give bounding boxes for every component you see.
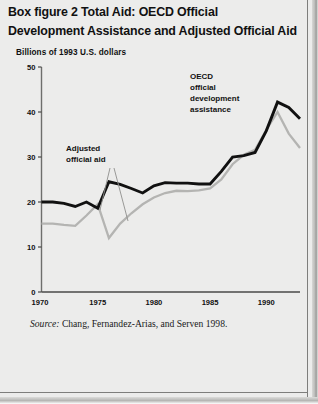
y-axis-tick-label: 30 — [27, 153, 35, 162]
paper-edge-bottom — [0, 397, 318, 404]
x-axis-tick-label: 1970 — [32, 298, 49, 307]
x-axis-tick-label: 1980 — [145, 298, 162, 307]
figure-subtitle: Billions of 1993 U.S. dollars — [16, 48, 126, 57]
line-chart-svg: 01020304050 19701975198019851990 Adjuste… — [0, 58, 318, 308]
y-axis-tick-labels: 01020304050 — [27, 63, 35, 297]
y-axis-tick-label: 20 — [27, 198, 35, 207]
source-citation: Chang, Fernandez-Arias, and Serven 1998. — [59, 318, 227, 329]
x-axis-tick-label: 1985 — [202, 298, 220, 307]
annotation-adjusted-official-aid: Adjusted official aid — [66, 144, 106, 164]
annotation-adjusted-line-1: Adjusted — [66, 144, 100, 153]
y-axis-tick-label: 50 — [27, 63, 35, 72]
figure-title: Box figure 2 Total Aid: OECD Official De… — [8, 3, 308, 41]
annotation-oecd-line-3: development — [190, 94, 240, 103]
series-line-adjusted-official-aid — [42, 112, 301, 238]
figure-page: Box figure 2 Total Aid: OECD Official De… — [0, 0, 318, 404]
page-frame-bottom-rule — [0, 392, 308, 393]
paper-edge-right — [312, 0, 318, 404]
y-axis-tick-label: 0 — [31, 288, 35, 297]
y-axis-tick-label: 10 — [27, 243, 35, 252]
annotation-adjusted-line-2: official aid — [66, 155, 106, 164]
annotation-oecd-oda: OECD official development assistance — [190, 72, 240, 114]
x-axis-tick-labels: 19701975198019851990 — [32, 298, 275, 307]
figure-title-line-2: Development Assistance and Adjusted Offi… — [8, 22, 308, 41]
page-frame-right-rule — [307, 0, 308, 398]
annotation-oecd-line-4: assistance — [190, 105, 231, 114]
x-axis-tick-label: 1975 — [89, 298, 107, 307]
y-axis-tick-label: 40 — [27, 108, 35, 117]
chart-plot-area: 01020304050 19701975198019851990 Adjuste… — [0, 58, 318, 308]
axes-group: 01020304050 19701975198019851990 — [27, 63, 300, 307]
annotation-oecd-line-2: official — [190, 83, 216, 92]
series-group — [42, 102, 301, 238]
figure-title-line-1: Box figure 2 Total Aid: OECD Official — [8, 3, 308, 22]
leader-line-adjusted-a — [100, 168, 110, 210]
annotation-oecd-line-1: OECD — [190, 72, 213, 81]
figure-source: Source: Chang, Fernandez-Arias, and Serv… — [30, 318, 227, 329]
source-label: Source: — [30, 318, 59, 329]
leader-line-adjusted-b — [114, 168, 128, 221]
x-axis-tick-label: 1990 — [258, 298, 275, 307]
